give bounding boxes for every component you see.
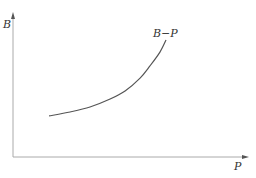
y-axis-arrow-icon	[11, 12, 15, 19]
series-line-b-p	[49, 40, 166, 116]
y-axis-label: B	[2, 18, 11, 31]
series-layer	[49, 40, 166, 116]
x-axis-arrow-icon	[242, 155, 249, 159]
x-axis-label: P	[233, 160, 242, 173]
series-label: B−P	[152, 27, 178, 40]
chart: B P B−P	[0, 0, 256, 178]
